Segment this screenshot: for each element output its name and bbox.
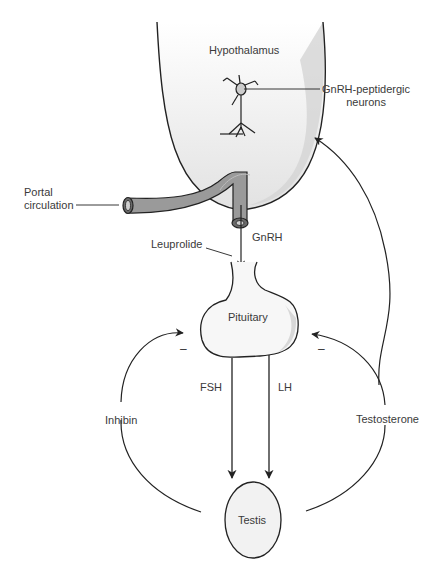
hypothalamus-label: Hypothalamus xyxy=(209,44,279,57)
fsh-label: FSH xyxy=(200,381,222,394)
testosterone-hypothalamus-arrow xyxy=(315,138,390,385)
negative-feedback-left: – xyxy=(180,342,187,356)
inhibin-label: Inhibin xyxy=(105,414,137,427)
portal-label-line1: Portal xyxy=(24,186,74,199)
gnrh-label: GnRH xyxy=(252,231,283,244)
testis-label: Testis xyxy=(238,514,266,527)
portal-circulation-label: Portal circulation xyxy=(24,186,74,212)
lh-label: LH xyxy=(278,381,292,394)
pituitary-shape xyxy=(201,262,299,357)
negative-feedback-right: – xyxy=(318,342,325,356)
leuprolide-pointer xyxy=(206,248,232,256)
testosterone-label: Testosterone xyxy=(356,413,419,426)
neurons-label-line1: GnRH-peptidergic xyxy=(322,83,410,96)
pituitary-label: Pituitary xyxy=(228,311,268,324)
portal-label-line2: circulation xyxy=(24,199,74,212)
neurons-label-line2: neurons xyxy=(322,96,410,109)
leuprolide-label: Leuprolide xyxy=(151,238,202,251)
neurons-label: GnRH-peptidergic neurons xyxy=(322,83,410,109)
